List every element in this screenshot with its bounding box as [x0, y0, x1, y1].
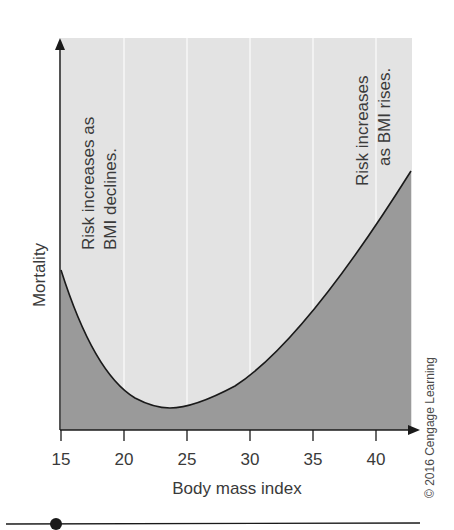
x-ticks: [61, 430, 376, 441]
x-tick-label: 20: [115, 450, 134, 469]
x-axis-arrow-icon: [408, 425, 420, 435]
svg-text:as BMI rises.: as BMI rises.: [375, 68, 394, 166]
bmi-mortality-chart: 15 20 25 30 35 40 Body mass index Mortal…: [0, 0, 454, 530]
x-tick-label: 35: [304, 450, 323, 469]
x-tick-label: 30: [241, 450, 260, 469]
x-tick-label: 15: [52, 450, 71, 469]
x-axis-title: Body mass index: [172, 479, 302, 498]
y-axis-title: Mortality: [30, 242, 49, 307]
bottom-rule-dot-icon: [50, 518, 62, 530]
copyright-credit: © 2016 Cengage Learning: [423, 357, 437, 498]
x-tick-label: 40: [367, 450, 386, 469]
bottom-rule: [6, 523, 420, 524]
svg-text:Risk increases: Risk increases: [353, 75, 372, 186]
svg-text:Risk increases as: Risk increases as: [79, 117, 98, 250]
x-tick-label: 25: [178, 450, 197, 469]
svg-text:BMI declines.: BMI declines.: [101, 148, 120, 250]
